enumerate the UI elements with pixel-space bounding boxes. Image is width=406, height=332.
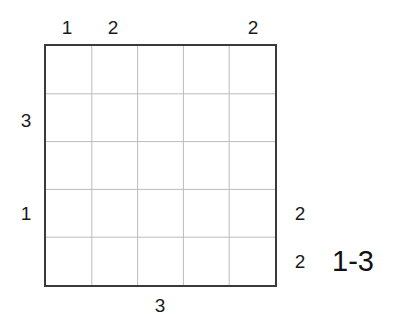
clue-bottom-col-3[interactable]: 3 [145, 296, 175, 315]
clue-right-row-4[interactable]: 2 [288, 204, 312, 223]
clue-left-row-4[interactable]: 1 [14, 204, 38, 223]
clue-top-col-1[interactable]: 1 [52, 18, 82, 37]
clue-top-col-2[interactable]: 2 [98, 18, 128, 37]
clue-left-row-2[interactable]: 3 [14, 111, 38, 130]
puzzle-canvas: 1 2 2 3 1 2 2 3 1-3 [0, 0, 406, 332]
range-note: 1-3 [332, 247, 374, 276]
grid-lines [46, 46, 275, 285]
puzzle-grid[interactable] [44, 44, 277, 287]
clue-top-col-5[interactable]: 2 [238, 18, 268, 37]
clue-right-row-5[interactable]: 2 [288, 252, 312, 271]
